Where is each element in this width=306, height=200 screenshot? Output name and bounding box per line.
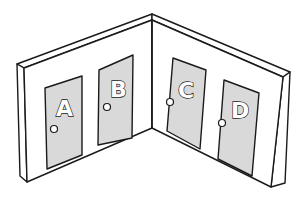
door-b-knob[interactable] — [104, 104, 111, 111]
door-b[interactable]: B — [98, 55, 133, 145]
door-d[interactable]: D — [218, 80, 259, 176]
door-c-knob[interactable] — [167, 99, 174, 106]
door-a-knob[interactable] — [51, 126, 58, 133]
door-d-knob[interactable] — [219, 120, 226, 127]
door-d-label: D — [231, 98, 249, 123]
door-b-label: B — [110, 77, 127, 102]
door-a-label: A — [56, 96, 73, 121]
door-a[interactable]: A — [45, 76, 82, 169]
door-c-label: C — [178, 78, 194, 103]
doors-illustration: A B C D — [0, 0, 306, 200]
